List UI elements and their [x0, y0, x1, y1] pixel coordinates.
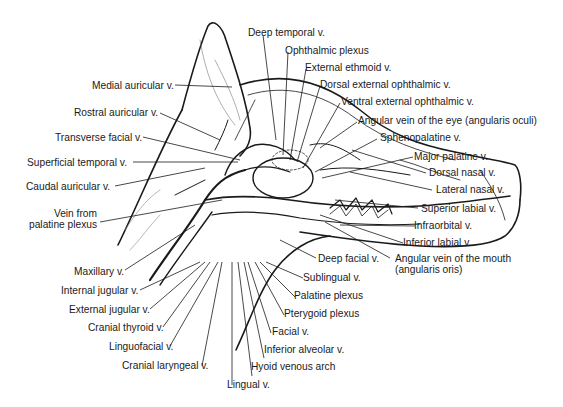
label-external-jugular-vein: External jugular v.: [69, 304, 150, 315]
label-vein-from-palatine-plexus-2: palatine plexus: [20, 219, 97, 230]
label-deep-facial-vein: Deep facial v.: [318, 253, 379, 264]
label-lingual-vein: Lingual v.: [227, 379, 270, 390]
label-inferior-alveolar-vein: Inferior alveolar v.: [264, 344, 344, 355]
label-inferior-labial-vein: Inferior labial v.: [403, 237, 471, 248]
label-sublingual-vein: Sublingual v.: [303, 272, 361, 283]
label-sphenopalatine-vein: Sphenopalatine v.: [380, 132, 461, 143]
label-major-palatine-vein: Major palatine v.: [414, 151, 488, 162]
label-caudal-auricular-vein: Caudal auricular v.: [26, 181, 110, 192]
label-internal-jugular-vein: Internal jugular v.: [61, 285, 138, 296]
label-external-ethmoid-vein: External ethmoid v.: [305, 62, 391, 73]
label-hyoid-venous-arch: Hyoid venous arch: [251, 361, 335, 372]
label-rostral-auricular-vein: Rostral auricular v.: [74, 107, 158, 118]
label-angular-vein-of-mouth: Angular vein of the mouth: [395, 253, 511, 264]
ear-outline: [182, 23, 250, 156]
label-transverse-facial-vein: Transverse facial v.: [55, 132, 142, 143]
label-linguofacial-vein: Linguofacial v.: [109, 341, 173, 352]
label-palatine-plexus: Palatine plexus: [294, 290, 363, 301]
label-maxillary-vein: Maxillary v.: [74, 266, 124, 277]
label-infraorbital-vein: Infraorbital v.: [414, 220, 472, 231]
label-superficial-temporal-vein: Superficial temporal v.: [27, 157, 127, 168]
label-angular-vein-of-eye: Angular vein of the eye (angularis oculi…: [358, 115, 537, 126]
label-ophthalmic-plexus: Ophthalmic plexus: [285, 45, 369, 56]
anatomy-diagram: Deep temporal v. Ophthalmic plexus Exter…: [0, 0, 563, 407]
label-cranial-laryngeal-vein: Cranial laryngeal v.: [122, 360, 208, 371]
orbit: [253, 158, 313, 198]
label-pterygoid-plexus: Pterygoid plexus: [284, 308, 359, 319]
label-lateral-nasal-vein: Lateral nasal v.: [436, 184, 504, 195]
label-medial-auricular-vein: Medial auricular v.: [92, 80, 174, 91]
label-vein-from-palatine-plexus-1: Vein from: [20, 208, 97, 219]
head-outline: [118, 110, 182, 245]
label-superior-labial-vein: Superior labial v.: [421, 203, 496, 214]
label-dorsal-external-ophthalmic-vein: Dorsal external ophthalmic v.: [320, 79, 451, 90]
label-dorsal-nasal-vein: Dorsal nasal v.: [429, 167, 496, 178]
label-angularis-oris: (angularis oris): [395, 264, 462, 275]
label-facial-vein: Facial v.: [272, 326, 309, 337]
label-ventral-external-ophthalmic-vein: Ventral external ophthalmic v.: [341, 96, 474, 107]
label-deep-temporal-vein: Deep temporal v.: [248, 27, 325, 38]
label-cranial-thyroid-vein: Cranial thyroid v.: [88, 322, 164, 333]
